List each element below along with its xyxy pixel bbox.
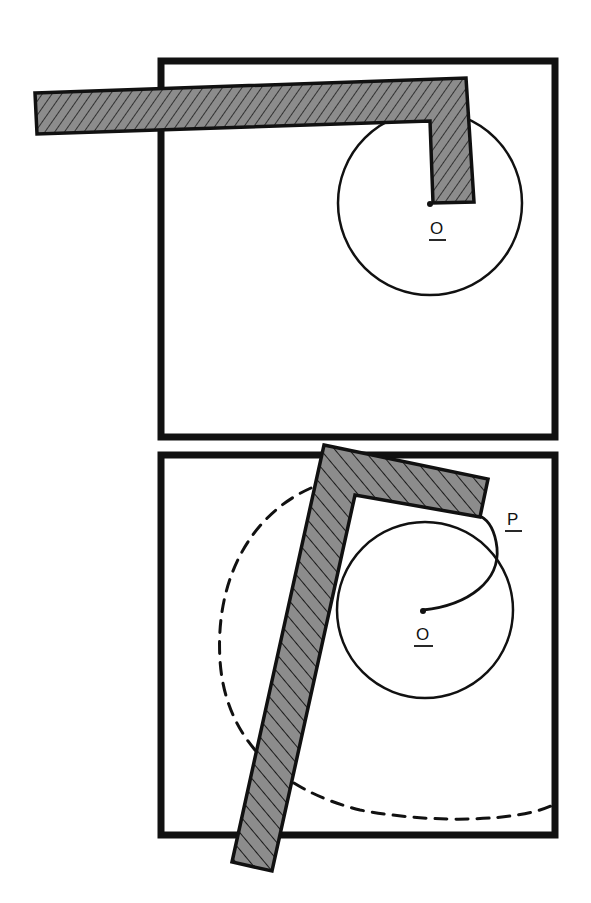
bottom-point-label: P <box>507 510 518 529</box>
bottom-l-bar <box>232 445 488 871</box>
top-l-bar <box>35 78 474 203</box>
bottom-pivot-dot <box>420 608 426 614</box>
top-pivot-dot <box>427 201 433 207</box>
top-panel: O <box>35 61 555 437</box>
top-pivot-label: O <box>430 219 443 238</box>
diagram-canvas: O O P <box>0 0 591 903</box>
bottom-panel: O P <box>161 445 555 871</box>
bottom-pivot-label: O <box>416 625 429 644</box>
